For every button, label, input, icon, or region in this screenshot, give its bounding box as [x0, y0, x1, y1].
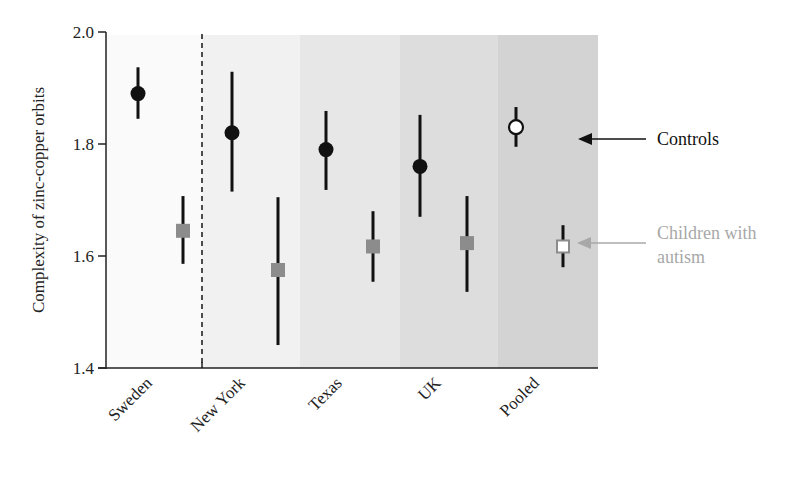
band-new-york: [202, 35, 300, 368]
y-tick-label: 1.6: [73, 247, 94, 266]
x-tick-labels: SwedenNew YorkTexasUKPooled: [104, 373, 543, 436]
y-tick-label: 1.4: [73, 359, 95, 378]
band-pooled: [498, 35, 598, 368]
x-tick-label: Pooled: [496, 373, 543, 420]
y-tick-label: 2.0: [73, 23, 94, 42]
y-tick-label: 1.8: [73, 135, 94, 154]
band-texas: [300, 35, 400, 368]
x-tick-label: UK: [414, 373, 445, 404]
legend-autism-label-line2: autism: [657, 247, 705, 267]
legend-controls: Controls: [578, 129, 719, 149]
legend-autism-label-line1: Children with: [657, 223, 757, 243]
region-bands: [106, 35, 598, 368]
chart: 1.41.61.82.0 Complexity of zinc-copper o…: [0, 0, 812, 482]
legend-autism: Children with autism: [577, 223, 757, 267]
x-tick-label: Sweden: [104, 373, 156, 425]
legend: Controls Children with autism: [577, 129, 757, 267]
y-axis-label: Complexity of zinc-copper orbits: [29, 87, 48, 313]
x-tick-label: New York: [187, 373, 250, 436]
band-sweden: [106, 35, 202, 368]
x-tick-label: Texas: [305, 373, 346, 414]
band-uk: [400, 35, 498, 368]
legend-controls-label: Controls: [657, 129, 719, 149]
